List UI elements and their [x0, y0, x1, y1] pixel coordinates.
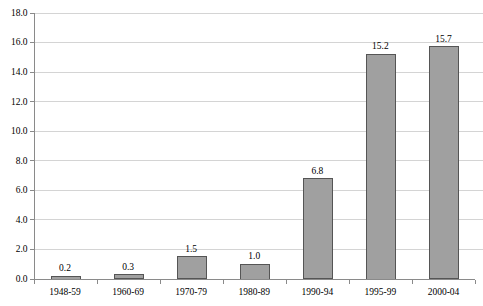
bar-value-label: 15.2 — [372, 41, 389, 51]
y-axis-tick-label: 0.0 — [16, 274, 28, 284]
x-axis-tick-label: 1995-99 — [365, 287, 397, 297]
x-axis-tick-label: 2000-04 — [428, 287, 460, 297]
x-axis-tick-label: 1980-89 — [238, 287, 270, 297]
bar-value-label: 0.3 — [122, 262, 134, 272]
y-axis-tick-label: 12.0 — [11, 97, 28, 107]
bar-chart: 0.02.04.06.08.010.012.014.016.018.0 0.20… — [0, 0, 483, 306]
y-axis-tick-label: 2.0 — [16, 244, 28, 254]
x-axis-tick-label: 1970-79 — [175, 287, 207, 297]
bar — [430, 47, 459, 279]
y-axis-tick-label: 8.0 — [16, 156, 28, 166]
y-axis-tick-label: 6.0 — [16, 185, 28, 195]
y-axis-tick-labels: 0.02.04.06.08.010.012.014.016.018.0 — [11, 8, 34, 284]
bar-value-label: 1.0 — [248, 251, 260, 261]
y-axis-tick-label: 18.0 — [11, 8, 28, 18]
bar — [178, 257, 207, 279]
bar-value-label: 15.7 — [435, 34, 452, 44]
bar-value-label: 1.5 — [185, 244, 197, 254]
y-axis-tick-label: 4.0 — [16, 215, 28, 225]
x-axis-tick-label: 1948-59 — [49, 287, 81, 297]
bars-group — [52, 47, 459, 280]
chart-canvas: 0.02.04.06.08.010.012.014.016.018.0 0.20… — [0, 0, 483, 306]
x-axis-line-group — [34, 280, 476, 284]
x-axis-tick-label: 1960-69 — [112, 287, 144, 297]
x-axis-tick-labels: 1948-591960-691970-791980-891990-941995-… — [49, 287, 459, 297]
gridlines-group — [34, 14, 483, 250]
bar-value-label: 0.2 — [59, 263, 71, 273]
y-axis-tick-label: 10.0 — [11, 126, 28, 136]
y-axis-tick-label: 14.0 — [11, 67, 28, 77]
bar — [241, 265, 270, 280]
bar — [367, 55, 396, 280]
y-axis-tick-label: 16.0 — [11, 37, 28, 47]
x-axis-tick-label: 1990-94 — [301, 287, 333, 297]
bar — [304, 179, 333, 279]
bar — [115, 275, 144, 279]
bar-value-label: 6.8 — [311, 166, 323, 176]
